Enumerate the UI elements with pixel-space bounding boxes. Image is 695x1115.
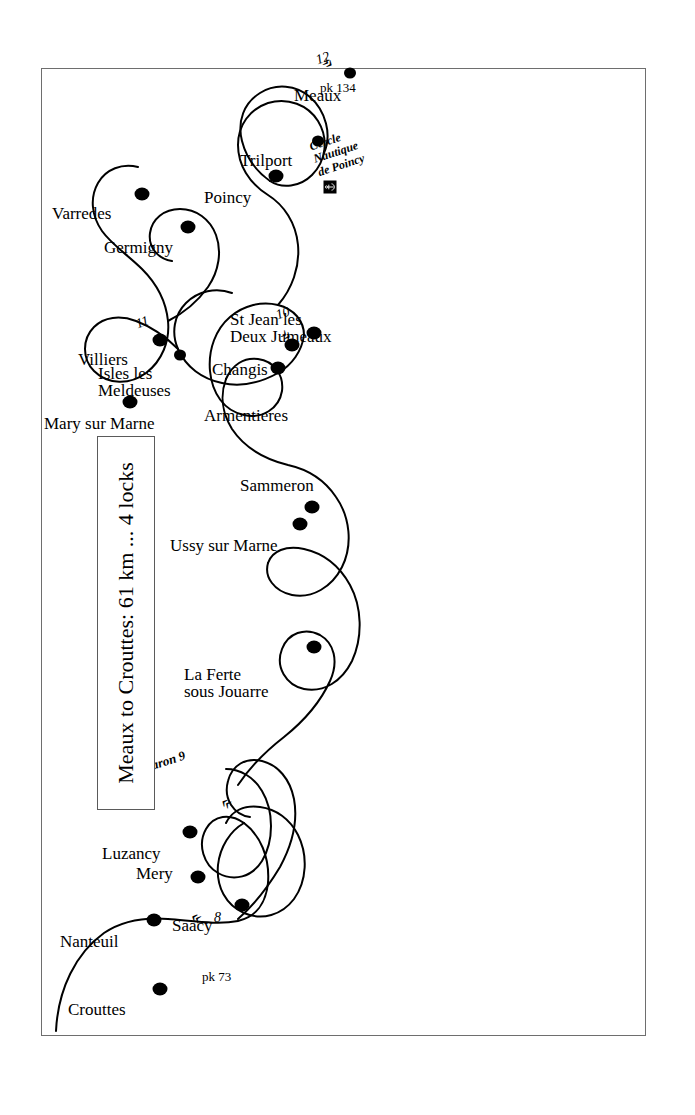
town-label-changis: Changis [212, 361, 268, 378]
town-label-la-ferte-sous-jouarre: La Ferte sous Jouarre [184, 666, 269, 701]
town-label-crouttes: Crouttes [68, 1001, 126, 1018]
town-dot-meaux[interactable] [344, 68, 356, 79]
town-dot-saacy[interactable] [235, 899, 250, 912]
map-title: Meaux to Crouttes: 61 km ... 4 locks [113, 462, 139, 783]
town-dot-varredes[interactable] [135, 188, 150, 201]
town-dot-mery[interactable] [191, 871, 206, 884]
town-dot-nanteuil[interactable] [147, 914, 162, 927]
lock-label-8: 8 [214, 911, 221, 925]
town-dot-sammeron[interactable] [305, 501, 320, 514]
town-label-sammeron: Sammeron [240, 477, 314, 494]
town-label-ussy-sur-marne: Ussy sur Marne [170, 537, 278, 554]
town-label-nanteuil: Nanteuil [60, 933, 119, 950]
town-label-luzancy: Luzancy [102, 845, 161, 862]
town-label-armentieres: Armentieres [204, 407, 288, 424]
pk-label-134: pk 134 [320, 81, 356, 94]
river-loop-mery [227, 760, 295, 919]
map-title-box: Meaux to Crouttes: 61 km ... 4 locks [97, 436, 155, 810]
town-label-germigny: Germigny [104, 239, 173, 256]
town-dot-ussy-sur-marne[interactable] [293, 518, 308, 531]
town-dot-crouttes[interactable] [153, 983, 168, 996]
town-label-trilport: Trilport [240, 152, 292, 169]
town-dot-armentieres[interactable] [271, 362, 286, 375]
town-label-mary-sur-marne: Mary sur Marne [44, 415, 154, 432]
town-label-poincy: Poincy [204, 189, 251, 206]
page-canvas: Crouttes Nanteuil Saacy Mery Luzancy La … [0, 0, 695, 1115]
town-label-isles-les-meldeuses: Isles les Meldeuses [98, 365, 171, 400]
town-label-villiers: Villiers [78, 351, 128, 368]
town-dot-poincy[interactable] [269, 170, 284, 183]
town-label-varredes: Varredes [52, 205, 111, 222]
map-frame: Crouttes Nanteuil Saacy Mery Luzancy La … [41, 68, 646, 1036]
pk-label-73: pk 73 [202, 970, 231, 983]
town-dot-isles-les-meldeuses[interactable] [174, 350, 186, 361]
anchor-icon[interactable] [324, 181, 337, 194]
anchor-glyph [325, 182, 336, 193]
town-dot-luzancy[interactable] [183, 826, 198, 839]
town-label-mery: Mery [136, 865, 173, 882]
town-dot-germigny[interactable] [181, 221, 196, 234]
town-dot-la-ferte-sous-jouarre[interactable] [307, 641, 322, 654]
